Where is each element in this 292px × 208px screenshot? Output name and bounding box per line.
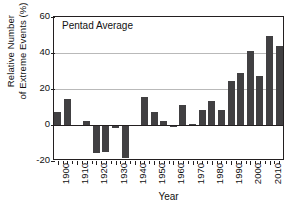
x-axis-title: Year bbox=[53, 191, 284, 202]
x-axis-tick-labels: 1900191019201930194019501960197019801990… bbox=[0, 0, 292, 208]
chart-figure: Relative Number of Extreme Events (%) 60… bbox=[0, 0, 292, 208]
